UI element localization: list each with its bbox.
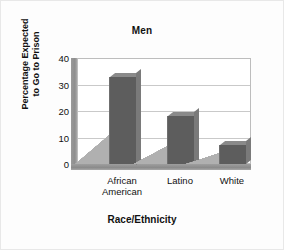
y-axis-label-line-1: Percentage Expected (20, 4, 31, 124)
y-tick-0: 0 (41, 159, 69, 170)
x-tick-latino: Latino (150, 175, 210, 186)
x-tick-latino-line-1: Latino (150, 175, 210, 186)
chart-figure: Men Percentage Expected to Go to Prison … (0, 0, 284, 250)
x-tick-white-line-1: White (202, 175, 262, 186)
bar-shadow-latino (133, 146, 167, 164)
y-tick-20: 20 (41, 106, 69, 117)
y-axis-tick-labels: 0 10 20 30 40 (41, 58, 69, 164)
bar-body-white (219, 145, 246, 164)
y-tick-40: 40 (41, 53, 69, 64)
bar-shadow-african-american (75, 135, 109, 164)
bar-side-face-white (246, 137, 251, 164)
x-axis-label: Race/Ethnicity (1, 214, 283, 225)
y-axis-label: Percentage Expected to Go to Prison (20, 4, 42, 124)
x-tick-african-american: African American (92, 175, 152, 197)
gridline-30 (78, 85, 250, 86)
bar-body-african-american (109, 77, 136, 165)
y-tick-10: 10 (41, 132, 69, 143)
y-tick-30: 30 (41, 79, 69, 90)
chart-title: Men (1, 25, 283, 36)
x-axis-tick-labels: African American Latino White (71, 175, 251, 201)
gridline-20 (78, 111, 250, 112)
plot-area (71, 58, 251, 170)
x-tick-african-american-line-2: American (92, 186, 152, 197)
x-tick-white: White (202, 175, 262, 186)
plot-floor (71, 164, 251, 170)
x-tick-african-american-line-1: African (92, 175, 152, 186)
bar-shadow-white (185, 153, 219, 164)
